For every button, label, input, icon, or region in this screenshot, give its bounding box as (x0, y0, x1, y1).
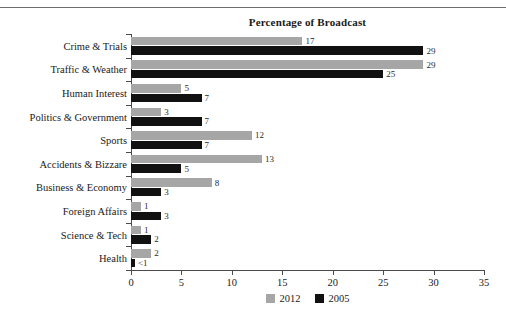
bar-value-label: 12 (255, 130, 264, 140)
bar-2005-crime-trials (131, 46, 423, 55)
bar-2005-science-tech (131, 235, 151, 244)
bar-value-label: 29 (426, 46, 435, 56)
x-tick-label: 30 (428, 277, 439, 288)
bar-value-label: 5 (184, 164, 189, 174)
bar-2005-human-interest (131, 94, 202, 103)
legend-item-2012[interactable]: 2012 (266, 293, 301, 304)
bar-2005-foreign-affairs (131, 212, 161, 221)
bar-value-label: 25 (386, 69, 395, 79)
legend-item-2005[interactable]: 2005 (315, 293, 350, 304)
bar-value-label: 5 (184, 83, 189, 93)
category-label: Foreign Affairs (63, 206, 127, 217)
bar-value-label: 1 (144, 225, 149, 235)
bar-value-label: 7 (205, 140, 210, 150)
bar-value-label: 3 (164, 187, 169, 197)
bar-2005-business-economy (131, 188, 161, 197)
category-label: Crime & Trials (63, 40, 127, 51)
bar-value-label: <1 (138, 258, 148, 268)
x-tick-label: 15 (277, 277, 288, 288)
bar-2005-sports (131, 141, 202, 150)
category-label: Business & Economy (36, 182, 127, 193)
plot-area: 1729292557371271358313122<1 (131, 34, 484, 270)
x-tick-label: 10 (227, 277, 238, 288)
legend-swatch-icon (315, 294, 324, 303)
bar-2005-politics-government (131, 117, 202, 126)
bar-2005-traffic-weather (131, 70, 383, 79)
x-tick-mark (383, 270, 384, 275)
legend-label: 2012 (280, 293, 301, 304)
bar-value-label: 7 (205, 116, 210, 126)
x-tick-mark (484, 270, 485, 275)
category-label: Health (99, 253, 127, 264)
bar-chart-figure: Percentage of Broadcast 05101520253035 C… (0, 8, 506, 315)
bar-2012-human-interest (131, 84, 181, 93)
bar-2005-accidents-bizzare (131, 164, 181, 173)
category-label: Accidents & Bizzare (40, 158, 127, 169)
category-label: Politics & Government (30, 111, 127, 122)
x-tick-mark (434, 270, 435, 275)
bar-2012-science-tech (131, 226, 141, 235)
category-label: Traffic & Weather (50, 64, 127, 75)
x-axis-line (131, 270, 485, 271)
legend-label: 2005 (329, 293, 350, 304)
category-label: Science & Tech (61, 229, 127, 240)
bar-2012-accidents-bizzare (131, 155, 262, 164)
bar-2012-politics-government (131, 108, 161, 117)
bar-value-label: 17 (305, 36, 314, 46)
bar-2012-sports (131, 131, 252, 140)
bar-2005-health (131, 259, 135, 268)
bar-value-label: 3 (164, 107, 169, 117)
bar-value-label: 7 (205, 93, 210, 103)
bar-2012-health (131, 249, 151, 258)
x-tick-label: 20 (327, 277, 338, 288)
bar-2012-foreign-affairs (131, 202, 141, 211)
legend-swatch-icon (266, 294, 275, 303)
bar-2012-crime-trials (131, 37, 302, 46)
category-label: Human Interest (62, 88, 127, 99)
bar-2012-traffic-weather (131, 60, 423, 69)
x-tick-mark (131, 270, 132, 275)
bar-value-label: 3 (164, 211, 169, 221)
x-tick-label: 0 (128, 277, 133, 288)
x-tick-mark (181, 270, 182, 275)
x-tick-mark (333, 270, 334, 275)
x-tick-label: 35 (479, 277, 490, 288)
bar-value-label: 29 (426, 60, 435, 70)
bar-value-label: 2 (154, 234, 159, 244)
x-tick-mark (232, 270, 233, 275)
bar-value-label: 8 (215, 178, 220, 188)
x-tick-label: 25 (378, 277, 389, 288)
category-label: Sports (100, 135, 127, 146)
bar-value-label: 1 (144, 201, 149, 211)
y-tick-mark (126, 270, 131, 271)
bar-value-label: 2 (154, 248, 159, 258)
chart-legend: 20122005 (131, 293, 484, 304)
clipped-header-text (6, 0, 206, 4)
bar-2012-business-economy (131, 178, 212, 187)
x-tick-label: 5 (179, 277, 184, 288)
x-tick-mark (282, 270, 283, 275)
bar-value-label: 13 (265, 154, 274, 164)
chart-title: Percentage of Broadcast (131, 16, 484, 28)
